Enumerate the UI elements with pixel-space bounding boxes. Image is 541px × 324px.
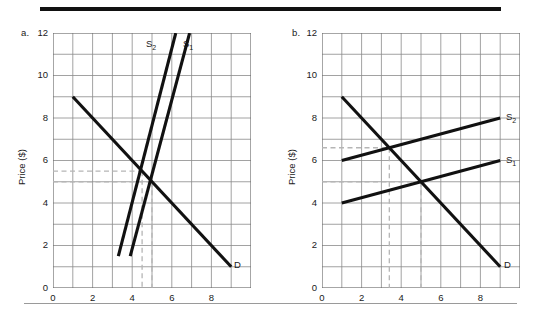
panel-a-xtick-8: 8 bbox=[203, 292, 219, 303]
panel-b-ytick-12: 12 bbox=[301, 27, 317, 38]
panel-b-xtick-8: 8 bbox=[472, 292, 488, 303]
panel-b-xtick-2: 2 bbox=[354, 292, 370, 303]
panel-a-letter: a. bbox=[21, 27, 29, 38]
panel-a-label-d: D bbox=[234, 259, 241, 270]
panel-a-xtick-4: 4 bbox=[124, 292, 140, 303]
panel-b-ytick-6: 6 bbox=[301, 154, 317, 165]
panel-a-plot-area bbox=[53, 33, 251, 288]
panel-b-plot-area bbox=[322, 33, 520, 288]
figure-root: a. Price ($) bbox=[0, 0, 541, 324]
panel-a: a. Price ($) bbox=[0, 0, 271, 324]
panel-a-xtick-2: 2 bbox=[85, 292, 101, 303]
panel-b-xtick-4: 4 bbox=[393, 292, 409, 303]
panel-a-svg bbox=[53, 33, 251, 288]
panel-b-svg bbox=[322, 33, 520, 288]
panel-a-label-s2: S2 bbox=[146, 38, 156, 51]
panel-b-label-d: D bbox=[504, 259, 511, 270]
panel-a-label-s1: S1 bbox=[183, 38, 193, 51]
panel-a-ytick-8: 8 bbox=[32, 112, 48, 123]
panel-a-ytick-10: 10 bbox=[32, 69, 48, 80]
panel-b-xtick-0: 0 bbox=[314, 292, 330, 303]
panel-b-ytick-8: 8 bbox=[301, 112, 317, 123]
panel-a-ytick-6: 6 bbox=[32, 154, 48, 165]
panel-b: b. Price ($) bbox=[270, 0, 541, 324]
panel-b-ytick-2: 2 bbox=[301, 239, 317, 250]
panel-b-label-s1: S1 bbox=[506, 154, 516, 167]
panel-b-letter: b. bbox=[292, 27, 300, 38]
panel-a-xtick-0: 0 bbox=[45, 292, 61, 303]
panel-a-label-s1-sub: 1 bbox=[189, 44, 193, 51]
panel-b-label-s1-sub: 1 bbox=[512, 160, 516, 167]
panel-b-label-s2: S2 bbox=[506, 111, 516, 124]
panel-a-label-s2-sub: 2 bbox=[152, 44, 156, 51]
panel-a-curve-supply-1 bbox=[130, 33, 189, 256]
panel-b-xtick-6: 6 bbox=[433, 292, 449, 303]
panel-a-ytick-4: 4 bbox=[32, 197, 48, 208]
panel-a-curve-supply-2 bbox=[118, 33, 175, 256]
panel-a-xtick-6: 6 bbox=[164, 292, 180, 303]
panel-b-ytick-10: 10 bbox=[301, 69, 317, 80]
panel-b-label-s2-sub: 2 bbox=[512, 117, 516, 124]
panel-a-ytick-12: 12 bbox=[32, 27, 48, 38]
panel-a-y-axis-label: Price ($) bbox=[16, 149, 27, 185]
panel-b-y-axis-label: Price ($) bbox=[286, 149, 297, 185]
panel-b-ytick-4: 4 bbox=[301, 197, 317, 208]
panel-a-ytick-2: 2 bbox=[32, 239, 48, 250]
